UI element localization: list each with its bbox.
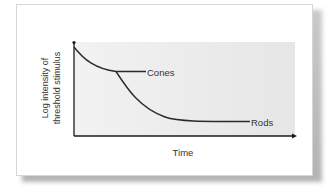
dark-adaptation-chart: Cones Rods Time Log intensity of thresho… xyxy=(0,0,333,196)
y-axis-arrow-icon xyxy=(72,41,75,44)
cones-label: Cones xyxy=(147,67,175,78)
y-axis-label-line2: threshold stimulus xyxy=(52,51,62,124)
x-axis-label: Time xyxy=(173,147,194,158)
rods-label: Rods xyxy=(251,117,273,128)
y-axis-label-line1: Log intensity of xyxy=(40,57,50,118)
